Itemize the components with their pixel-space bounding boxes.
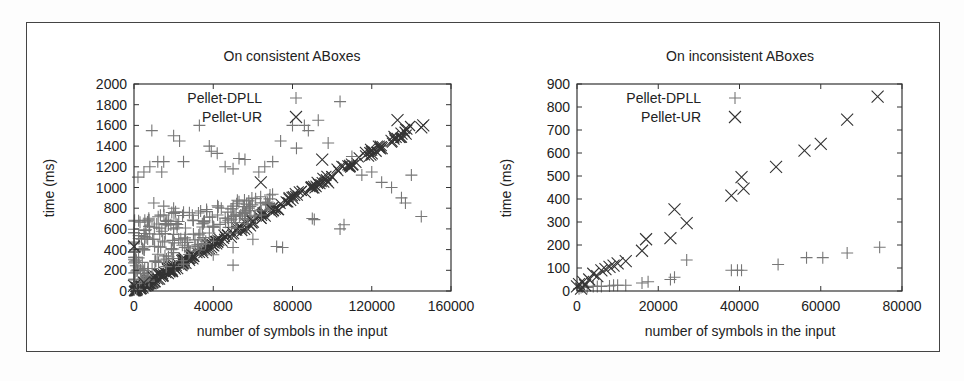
x-tick-label: 0	[130, 298, 138, 314]
plus-marker	[306, 213, 318, 225]
y-tick-label: 500	[547, 168, 571, 184]
y-tick-label: 2000	[96, 76, 127, 92]
x-tick-label: 60000	[801, 298, 840, 314]
x-marker	[664, 232, 676, 244]
legend-label-dpll: Pellet-DPLL	[187, 90, 262, 106]
plus-marker	[386, 182, 398, 194]
plus-marker	[158, 200, 170, 212]
plus-marker	[772, 259, 784, 271]
x-marker	[640, 233, 652, 245]
chart-title: On consistent ABoxes	[224, 48, 361, 64]
plus-marker	[138, 244, 150, 256]
y-tick-label: 1600	[96, 117, 127, 133]
x-marker	[316, 154, 328, 166]
y-tick-label: 1200	[96, 159, 127, 175]
plus-marker	[211, 147, 223, 159]
legend: Pellet-DPLL Pellet-UR	[626, 90, 741, 125]
plus-marker	[168, 130, 180, 142]
x-tick-label: 120000	[348, 298, 395, 314]
plus-marker	[620, 279, 632, 291]
plus-marker	[415, 210, 427, 222]
figure-svg: On consistent ABoxes 0400008000012000016…	[0, 0, 964, 381]
plus-marker	[233, 153, 245, 165]
x-marker	[736, 171, 748, 183]
x-marker	[336, 161, 346, 171]
x-marker	[669, 203, 681, 215]
y-axis-label: time (ms)	[498, 159, 514, 217]
legend-label-ur: Pellet-UR	[641, 109, 701, 125]
y-tick-label: 1000	[96, 180, 127, 196]
x-marker	[405, 121, 415, 131]
y-tick-label: 1800	[96, 97, 127, 113]
plus-marker	[334, 96, 346, 108]
plus-marker	[146, 125, 158, 137]
plot-points	[571, 91, 886, 295]
plus-marker	[167, 234, 179, 246]
plus-marker	[197, 218, 209, 230]
plus-marker	[205, 145, 217, 157]
plus-marker	[376, 176, 388, 188]
x-marker	[620, 255, 632, 267]
plus-marker	[642, 276, 654, 288]
plus-marker	[178, 156, 190, 168]
plus-marker	[156, 166, 168, 178]
x-tick-label: 0	[573, 298, 581, 314]
y-tick-label: 800	[547, 99, 571, 115]
axes: 0200004000060000800000100200300400500600…	[547, 76, 922, 314]
plus-marker	[174, 135, 186, 147]
y-tick-label: 800	[104, 200, 128, 216]
plus-marker	[158, 156, 170, 168]
y-tick-label: 100	[547, 260, 571, 276]
plus-marker	[817, 252, 829, 264]
y-tick-label: 400	[547, 191, 571, 207]
x-marker	[799, 145, 811, 157]
x-marker	[725, 190, 737, 202]
plus-marker	[148, 197, 160, 209]
x-axis-label: number of symbols in the input	[645, 323, 836, 339]
plus-marker	[681, 254, 693, 266]
plus-marker	[247, 233, 259, 245]
x-marker	[815, 138, 827, 150]
plus-marker	[212, 201, 224, 213]
plus-marker	[366, 166, 378, 178]
x-tick-label: 20000	[639, 298, 678, 314]
plus-marker	[312, 114, 324, 126]
y-axis-label: time (ms)	[41, 159, 57, 217]
plus-marker	[405, 169, 417, 181]
y-tick-label: 200	[104, 262, 128, 278]
legend-label-dpll: Pellet-DPLL	[626, 90, 701, 106]
plus-marker	[149, 256, 161, 268]
x-marker	[290, 111, 302, 123]
chart-inconsistent: On inconsistent ABoxes 02000040000600008…	[498, 48, 922, 339]
x-marker	[636, 245, 648, 257]
y-tick-label: 200	[547, 237, 571, 253]
plus-marker	[255, 191, 267, 203]
x-marker	[872, 91, 884, 103]
plus-marker	[227, 163, 239, 175]
legend-markers	[290, 92, 302, 123]
plus-marker	[239, 154, 251, 166]
plus-marker	[308, 214, 320, 226]
legend: Pellet-DPLL Pellet-UR	[187, 90, 302, 125]
legend-markers	[729, 92, 741, 123]
plus-marker	[841, 247, 853, 259]
plus-marker	[201, 206, 213, 218]
y-tick-label: 600	[547, 145, 571, 161]
plus-marker	[277, 242, 289, 254]
x-tick-label: 80000	[273, 298, 312, 314]
x-marker	[255, 176, 267, 188]
x-tick-label: 40000	[194, 298, 233, 314]
plot-area	[577, 84, 902, 291]
plus-marker	[267, 156, 279, 168]
plot-points	[128, 96, 429, 296]
chart-consistent: On consistent ABoxes 0400008000012000016…	[41, 48, 475, 339]
plus-marker	[874, 241, 886, 253]
legend-label-ur: Pellet-UR	[202, 109, 262, 125]
y-tick-label: 900	[547, 76, 571, 92]
x-marker	[738, 183, 750, 195]
x-marker	[392, 114, 404, 126]
x-marker	[681, 217, 693, 229]
plus-marker	[729, 92, 741, 104]
plus-marker	[203, 140, 215, 152]
y-tick-label: 600	[104, 221, 128, 237]
